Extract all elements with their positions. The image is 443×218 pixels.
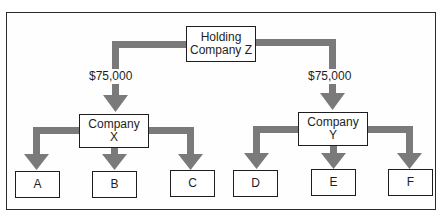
node-label: E: [329, 176, 337, 189]
transfer-label-to-x: $75,000: [88, 69, 133, 83]
node-company-y: Company Y: [298, 112, 368, 146]
node-holding-company-z: Holding Company Z: [186, 26, 256, 62]
node-company-a: A: [15, 171, 60, 198]
transfer-label-to-y: $75,000: [307, 69, 352, 83]
node-label: F: [407, 176, 414, 189]
node-company-c: C: [170, 170, 215, 197]
ownership-diagram: Holding Company Z $75,000 $75,000 Compan…: [0, 0, 443, 218]
node-company-d: D: [233, 170, 278, 197]
node-label-line2: X: [110, 131, 118, 144]
node-company-f: F: [388, 169, 433, 196]
node-label: A: [33, 178, 41, 191]
node-label: B: [110, 178, 118, 191]
node-company-e: E: [311, 169, 356, 196]
node-label-line2: Y: [329, 129, 337, 142]
node-company-b: B: [92, 171, 137, 198]
node-label: D: [251, 177, 260, 190]
node-label-line2: Company Z: [190, 44, 252, 57]
node-company-x: Company X: [79, 114, 149, 148]
node-label: C: [188, 177, 197, 190]
